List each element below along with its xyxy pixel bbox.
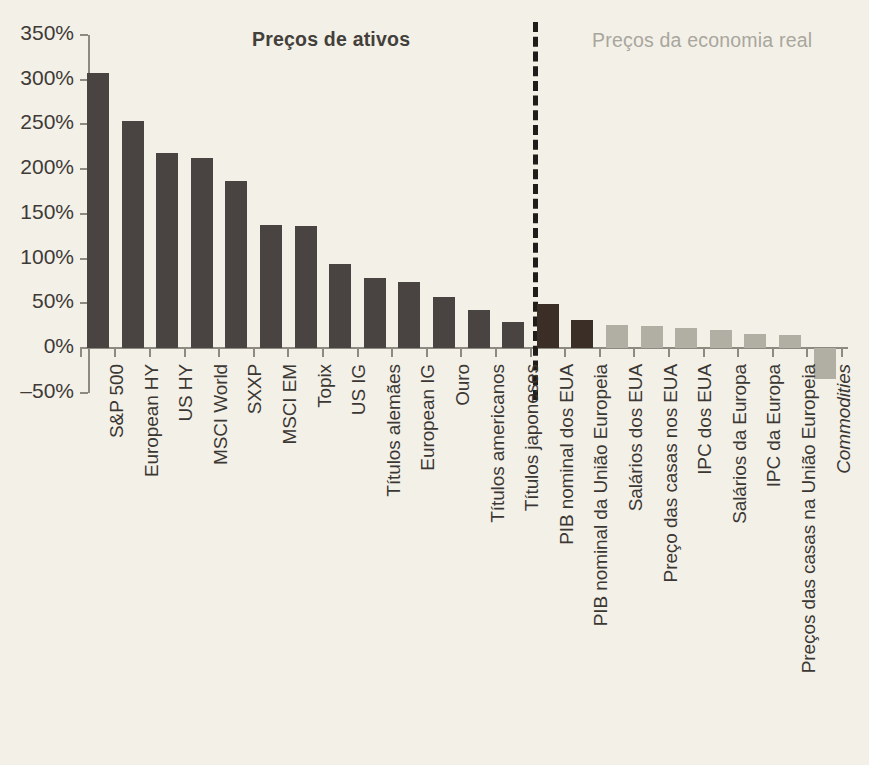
y-tick-label: 100% [0,259,78,260]
y-tick-label-text: 100% [20,245,74,269]
x-axis-label: Preços das casas na União Europeia [798,364,820,673]
x-axis-label: MSCI EM [279,364,301,445]
x-tick [633,349,635,357]
x-tick [287,349,289,357]
x-tick [322,349,324,357]
bar-real [744,334,766,348]
x-tick [391,349,393,357]
x-axis-label: US HY [175,364,197,422]
bar-gdp [571,320,593,348]
bar-asset [433,297,455,348]
bar-asset [468,310,490,348]
bar-chart: 350%300%250%200%150%100%50%0%‒50% Preços… [0,0,869,765]
y-tick-label: 350% [0,35,78,36]
bar-real [710,330,732,348]
x-axis-label: S&P 500 [106,364,128,438]
x-axis-label: European IG [417,364,439,471]
x-tick [841,349,843,357]
x-axis-label: Títulos americanos [487,364,509,523]
bar-asset [191,158,213,348]
x-axis-label: PIB nominal dos EUA [556,364,578,545]
x-tick [114,349,116,357]
bar-gdp [537,304,559,348]
bar-asset [260,225,282,348]
x-tick [460,349,462,357]
bar-asset [398,282,420,348]
x-tick [495,349,497,357]
y-tick-label: 300% [0,80,78,81]
bar-asset [122,121,144,348]
x-axis-label: IPC dos EUA [694,364,716,475]
x-tick [599,349,601,357]
x-tick [530,349,532,357]
x-axis-label: PIB nominal da União Europeia [590,364,612,626]
y-tick-label: 150% [0,214,78,215]
x-tick [149,349,151,357]
x-tick [737,349,739,357]
x-tick [668,349,670,357]
x-tick [184,349,186,357]
bar-asset [156,153,178,348]
x-axis-label: US IG [348,364,370,415]
x-axis-label: Salários da Europa [729,364,751,524]
x-tick [80,349,82,357]
x-tick [564,349,566,357]
x-axis-label: IPC da Europa [763,364,785,487]
bar-asset [502,322,524,348]
x-tick [703,349,705,357]
bar-asset [329,264,351,348]
section-title-real: Preços da economia real [592,29,812,52]
x-axis-label: Salários dos EUA [625,364,647,511]
bar-asset [295,226,317,348]
x-tick [772,349,774,357]
bar-asset [225,181,247,348]
bar-asset [87,73,109,348]
x-tick [253,349,255,357]
bar-real [779,335,801,348]
y-tick-label-text: 150% [20,200,74,224]
y-tick [80,392,88,394]
y-tick-label-text: 200% [20,155,74,179]
bar-asset [364,278,386,348]
y-tick-label: 250% [0,124,78,125]
y-tick-label-text: 0% [44,334,74,358]
x-tick [357,349,359,357]
y-tick [80,34,88,36]
y-tick-label: 50% [0,303,78,304]
y-tick-label: 0% [0,348,78,349]
x-axis-label: Títulos alemães [383,364,405,497]
x-axis-label: Commodities [833,364,855,474]
y-tick-label-text: 300% [20,66,74,90]
y-tick-label-text: 250% [20,110,74,134]
x-axis-label: European HY [141,364,163,477]
bar-real [641,326,663,348]
x-axis-label: Ouro [452,364,474,406]
chart-page: 350%300%250%200%150%100%50%0%‒50% Preços… [0,0,869,765]
x-axis-label: Preço das casas nos EUA [660,364,682,582]
y-tick-label-text: ‒50% [20,379,74,403]
y-tick-label: ‒50% [0,393,78,394]
x-axis-label: Títulos japoneses [521,364,543,511]
x-tick [218,349,220,357]
bar-real [675,328,697,348]
x-tick [426,349,428,357]
x-axis-label: SXXP [244,364,266,414]
y-tick-label: 200% [0,169,78,170]
bar-real [606,325,628,348]
section-title-assets: Preços de ativos [252,28,410,51]
y-tick-label-text: 50% [32,289,74,313]
y-tick-label-text: 350% [20,21,74,45]
x-axis-label: Topix [314,364,336,408]
x-tick [806,349,808,357]
x-axis-label: MSCI World [210,364,232,465]
